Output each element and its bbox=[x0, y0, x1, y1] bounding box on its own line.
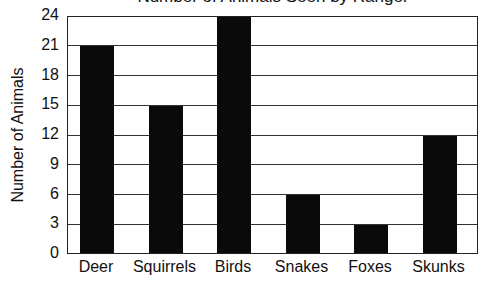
gridline bbox=[68, 224, 477, 225]
bar-foxes bbox=[354, 225, 388, 253]
gridline bbox=[68, 194, 477, 195]
y-tick-label: 18 bbox=[29, 67, 59, 83]
y-tick-label: 9 bbox=[29, 156, 59, 172]
gridline bbox=[68, 135, 477, 136]
y-tick-label: 12 bbox=[29, 126, 59, 142]
y-tick-label: 24 bbox=[29, 7, 59, 23]
x-tick-label: Skunks bbox=[399, 258, 479, 276]
bar-squirrels bbox=[149, 106, 183, 253]
y-tick-label: 3 bbox=[29, 215, 59, 231]
gridline bbox=[68, 75, 477, 76]
gridline bbox=[68, 45, 477, 46]
y-tick-label: 15 bbox=[29, 96, 59, 112]
bar-deer bbox=[80, 46, 114, 253]
bar-skunks bbox=[423, 136, 457, 254]
bar-birds bbox=[217, 17, 251, 254]
y-tick-label: 21 bbox=[29, 37, 59, 53]
gridline bbox=[68, 105, 477, 106]
plot-area bbox=[67, 16, 478, 254]
chart-title: Number of Animals Seen by Ranger bbox=[67, 0, 479, 7]
y-tick-label: 6 bbox=[29, 186, 59, 202]
y-axis-label: Number of Animals bbox=[9, 65, 27, 205]
y-tick-label: 0 bbox=[29, 245, 59, 261]
bar-snakes bbox=[286, 195, 320, 253]
gridline bbox=[68, 164, 477, 165]
